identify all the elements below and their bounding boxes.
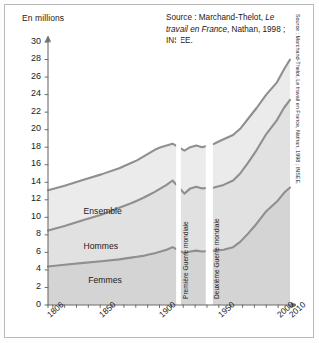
- series-label-femmes: Femmes: [88, 275, 121, 285]
- y-tick-label: 4: [21, 263, 41, 273]
- source-note-italic2: en France: [190, 25, 227, 34]
- series-label-ensemble: Ensemble: [84, 206, 122, 216]
- war-gap-war1: [176, 36, 181, 306]
- y-tick-label: 20: [21, 123, 41, 133]
- y-tick-label: 16: [21, 158, 41, 168]
- y-tick-label: 12: [21, 193, 41, 203]
- y-tick-label: 6: [21, 246, 41, 256]
- chart-canvas: [44, 36, 296, 308]
- war-label-war2: Deuxième Guerre mondiale: [213, 218, 220, 299]
- y-tick-label: 14: [21, 176, 41, 186]
- y-tick-label: 2: [21, 281, 41, 291]
- y-axis-title: En millions: [22, 13, 64, 23]
- y-tick-label: 0: [21, 299, 41, 309]
- plot-area: [44, 36, 296, 308]
- y-tick-label: 22: [21, 106, 41, 116]
- y-tick-label: 30: [21, 36, 41, 46]
- figure-root: En millions Source : Marchand-Thelot, Le…: [0, 0, 319, 343]
- y-tick-label: 8: [21, 228, 41, 238]
- war-label-war1: Première Guerre mondiale: [182, 221, 189, 299]
- series-label-hommes: Hommes: [84, 241, 118, 251]
- war-gap-war2: [206, 36, 213, 306]
- y-tick-label: 10: [21, 211, 41, 221]
- y-tick-label: 28: [21, 53, 41, 63]
- y-tick-label: 24: [21, 88, 41, 98]
- y-tick-label: 18: [21, 141, 41, 151]
- source-note-part1: Source : Marchand-Thelot,: [166, 13, 265, 22]
- y-tick-label: 26: [21, 71, 41, 81]
